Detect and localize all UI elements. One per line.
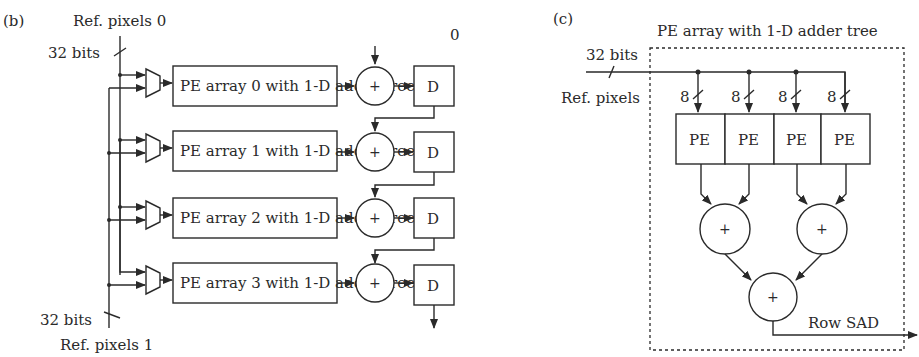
- mux-icon: [146, 69, 160, 97]
- pe-row-1: PE array 1 with 1-D adder tree + D: [107, 106, 454, 172]
- diagram-canvas: (b) Ref. pixels 0 32 bits 32 bits Ref. p…: [0, 0, 919, 357]
- pe-row-0: PE array 0 with 1-D adder tree + D 0: [109, 26, 460, 106]
- pe-row-2: PE array 2 with 1-D adder tree + D: [107, 172, 454, 238]
- bus-width-label: 8: [680, 88, 690, 106]
- bits-bottom-label: 32 bits: [40, 311, 92, 329]
- bus-width-label: 8: [827, 88, 837, 106]
- bus-width-label: 8: [778, 88, 788, 106]
- panel-b-label: (b): [3, 12, 24, 30]
- bits-top-label: 32 bits: [48, 44, 100, 62]
- adder-plus: +: [369, 210, 381, 226]
- ref-pixels-label: Ref. pixels: [561, 89, 640, 107]
- delay-label: D: [427, 144, 439, 162]
- row-sad-label: Row SAD: [808, 314, 879, 332]
- adder-plus: +: [767, 289, 779, 305]
- bus-width-tick-bottom: [104, 312, 120, 318]
- panel-b: (b) Ref. pixels 0 32 bits 32 bits Ref. p…: [3, 12, 460, 354]
- ref-pixels-0-label: Ref. pixels 0: [73, 12, 166, 30]
- delay-label: D: [427, 277, 439, 295]
- adder-init-value: 0: [450, 26, 460, 44]
- panel-c-title: PE array with 1-D adder tree: [657, 22, 878, 40]
- adder-plus: +: [719, 221, 731, 237]
- pe-label: PE: [786, 131, 807, 149]
- pe-label: PE: [834, 131, 855, 149]
- adder-plus: +: [369, 144, 381, 160]
- panel-c: (c) PE array with 1-D adder tree 32 bits…: [553, 10, 917, 350]
- adder-plus: +: [369, 78, 381, 94]
- panel-c-label: (c): [553, 10, 573, 28]
- adder-plus: +: [369, 275, 381, 291]
- mux-icon: [146, 266, 160, 294]
- pe-label: PE: [738, 131, 759, 149]
- bus-width-label: 8: [731, 88, 741, 106]
- bits-label: 32 bits: [586, 46, 638, 64]
- mux-icon: [146, 134, 160, 162]
- mux-icon: [146, 201, 160, 229]
- pe-label: PE: [689, 131, 710, 149]
- adder-plus: +: [816, 221, 828, 237]
- ref-pixels-1-label: Ref. pixels 1: [60, 336, 153, 354]
- delay-label: D: [427, 210, 439, 228]
- delay-label: D: [427, 78, 439, 96]
